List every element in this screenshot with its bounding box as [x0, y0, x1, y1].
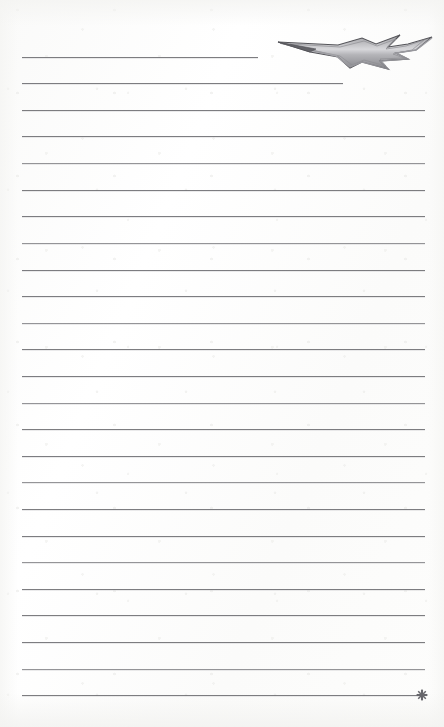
notepad-page [0, 0, 444, 727]
ruled-line [22, 642, 425, 643]
ruled-line [22, 562, 425, 563]
ruled-line [22, 110, 425, 111]
ruled-line [22, 83, 343, 84]
ruled-line [22, 216, 425, 217]
ruled-line [22, 243, 425, 244]
ruled-line [22, 589, 425, 590]
ruled-line [22, 509, 425, 510]
ruled-line [22, 163, 425, 164]
ruled-line [22, 296, 425, 297]
ruled-line [22, 190, 425, 191]
ruled-line [22, 456, 425, 457]
ruled-line [22, 57, 258, 58]
ruled-line [22, 270, 425, 271]
ruled-line [22, 323, 425, 324]
ruled-line [22, 349, 425, 350]
ruled-line [22, 429, 425, 430]
lightning-bolt-icon [276, 28, 434, 78]
ruled-line [22, 615, 425, 616]
ruled-line [22, 669, 425, 670]
ruled-line [22, 695, 420, 696]
ruled-line [22, 376, 425, 377]
asterisk-icon [416, 687, 428, 705]
ruled-line [22, 482, 425, 483]
ruled-line [22, 536, 425, 537]
ruled-line [22, 136, 425, 137]
ruled-line [22, 403, 425, 404]
